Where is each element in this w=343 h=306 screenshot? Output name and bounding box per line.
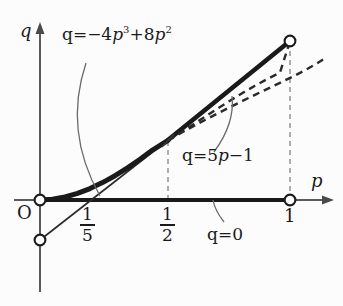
tick-label-one-half: 1 2 [160, 206, 175, 244]
linear-variable: p [218, 145, 229, 165]
linear-lhs: q=5 [182, 145, 218, 165]
open-point-y-intercept-minus-one [35, 235, 46, 246]
curve-dashed-cubic-extension [168, 57, 327, 140]
cubic-lhs: q=−4 [62, 24, 112, 44]
tick-label-one-fifth: 1 5 [80, 206, 95, 244]
cubic-equation-label: q=−4p3+8p2 [62, 25, 172, 43]
graph-canvas [0, 0, 343, 306]
tick-one-half-numerator: 1 [160, 206, 175, 223]
tick-one-fifth-denominator: 5 [80, 227, 95, 244]
open-point-origin [35, 195, 46, 206]
q-axis-arrowhead [36, 22, 45, 34]
cubic-base-2: p [155, 24, 166, 44]
q-axis-label: q [20, 22, 32, 40]
linear-equation-label: q=5p−1 [182, 147, 254, 164]
origin-label: O [17, 204, 32, 222]
cubic-mid: +8 [129, 24, 154, 44]
math-figure: q p O q=−4p3+8p2 q=5p−1 q=0 1 5 1 2 1 [0, 0, 343, 306]
leader-line-cubic [77, 63, 100, 196]
leader-line-zero [213, 200, 224, 222]
zero-equation-label: q=0 [207, 226, 243, 243]
cubic-exponent-2: 2 [165, 24, 171, 35]
curve-bold-cubic-left [40, 140, 168, 200]
linear-rhs: −1 [229, 145, 254, 165]
p-axis-arrowhead [322, 196, 334, 205]
open-point-p-one-on-axis [285, 195, 296, 206]
open-point-upper-intersection [285, 36, 296, 47]
p-axis-label: p [311, 172, 323, 190]
cubic-base-1: p [112, 24, 123, 44]
tick-one-fifth-numerator: 1 [80, 206, 95, 223]
tick-one-half-denominator: 2 [160, 227, 175, 244]
tick-label-one: 1 [284, 207, 295, 225]
